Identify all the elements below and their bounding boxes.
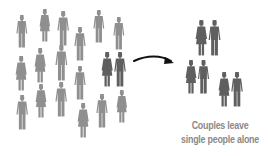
single-man-icon [96, 94, 108, 128]
caption: Couples leave single people alone [176, 118, 264, 146]
single-man-icon [74, 66, 86, 100]
single-woman-icon [39, 9, 51, 42]
single-woman-icon [15, 56, 27, 91]
single-man-icon [57, 11, 69, 46]
single-woman-icon [34, 48, 46, 83]
single-woman-icon [77, 103, 89, 138]
couple-icon [218, 72, 244, 107]
single-man-icon [113, 17, 125, 50]
couple-icon [101, 52, 127, 87]
arrow-icon [133, 52, 177, 68]
single-man-icon [93, 10, 105, 43]
caption-line-1: Couples leave [176, 118, 264, 132]
single-woman-icon [35, 84, 47, 118]
single-man-icon [55, 82, 67, 117]
single-man-icon [55, 45, 68, 81]
couple-icon [195, 20, 221, 56]
couple-icon [185, 60, 210, 94]
single-man-icon [16, 15, 28, 48]
single-woman-icon [116, 90, 128, 123]
single-man-icon [74, 27, 86, 61]
caption-line-2: single people alone [176, 132, 264, 146]
single-man-icon [16, 95, 28, 130]
